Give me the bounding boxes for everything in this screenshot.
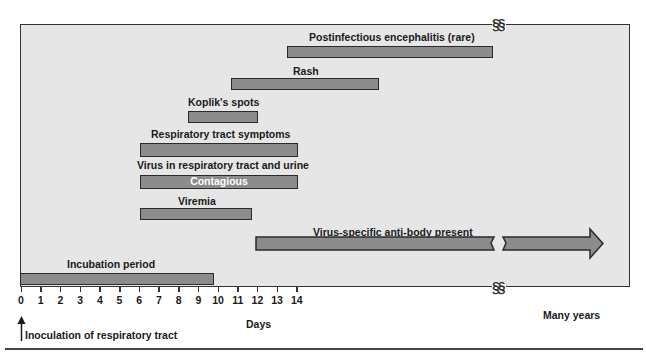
inoculation-arrow-icon — [0, 0, 646, 358]
inoculation-label: Inoculation of respiratory tract — [25, 329, 177, 341]
bottom-rule — [5, 348, 643, 350]
